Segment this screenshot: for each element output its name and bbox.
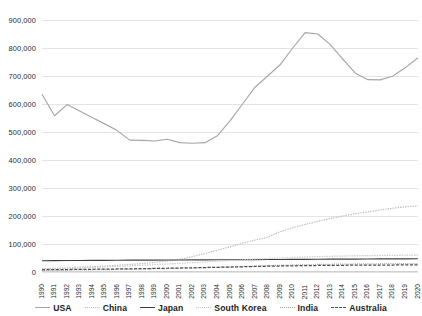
y-axis-tick-label: 600,000 — [9, 100, 36, 109]
chart-legend: USAChinaJapanSouth KoreaIndiaAustralia — [0, 299, 422, 316]
y-axis-tick-label: 0 — [32, 268, 36, 277]
legend-item-china[interactable]: China — [85, 303, 127, 313]
series-lines — [42, 20, 418, 272]
x-axis-tick-label: 1996 — [114, 284, 121, 299]
legend-item-australia[interactable]: Australia — [331, 303, 387, 313]
y-axis-tick-label: 900,000 — [9, 16, 36, 25]
x-axis-tick-label: 2010 — [289, 284, 296, 299]
x-axis-tick-label: 2015 — [352, 284, 359, 299]
y-axis-tick-label: 200,000 — [9, 212, 36, 221]
x-axis-tick-label: 1997 — [126, 284, 133, 299]
x-axis-tick-label: 2020 — [415, 284, 422, 299]
legend-item-usa[interactable]: USA — [35, 303, 71, 313]
x-axis-tick-label: 2007 — [252, 284, 259, 299]
y-axis-tick-label: 700,000 — [9, 72, 36, 81]
x-axis-tick-label: 1990 — [39, 284, 46, 299]
x-axis-tick-label: 2013 — [327, 284, 334, 299]
y-axis-tick-label: 400,000 — [9, 156, 36, 165]
legend-label-usa: USA — [53, 303, 71, 313]
legend-item-india[interactable]: India — [280, 303, 319, 313]
x-axis-tick-label: 1992 — [64, 284, 71, 299]
x-axis-tick-label: 2003 — [201, 284, 208, 299]
x-axis-tick-label: 1993 — [76, 284, 83, 299]
x-axis-labels: 1990199119921993199419951996199719981999… — [42, 273, 418, 299]
x-axis-tick-label: 2009 — [277, 284, 284, 299]
legend-swatch-australia — [331, 307, 346, 308]
x-axis-tick-label: 1995 — [101, 284, 108, 299]
x-axis-line — [42, 271, 418, 272]
x-axis-tick-label: 1999 — [151, 284, 158, 299]
x-axis-tick-label: 2001 — [176, 284, 183, 299]
legend-swatch-china — [85, 307, 100, 308]
y-axis-tick-label: 300,000 — [9, 184, 36, 193]
x-axis-tick-label: 1998 — [139, 284, 146, 299]
legend-label-south-korea: South Korea — [214, 303, 266, 313]
x-axis-tick-label: 2002 — [189, 284, 196, 299]
legend-swatch-south-korea — [196, 307, 211, 308]
x-axis-tick-label: 2011 — [302, 285, 309, 299]
legend-label-india: India — [298, 303, 319, 313]
x-axis-tick-label: 2006 — [239, 284, 246, 299]
x-axis-tick-label: 2019 — [402, 284, 409, 299]
x-axis-tick-label: 2018 — [389, 284, 396, 299]
y-axis-tick-label: 500,000 — [9, 128, 36, 137]
y-axis-labels: 0100,000200,000300,000400,000500,000600,… — [0, 0, 40, 292]
plot-area — [42, 20, 418, 272]
legend-item-japan[interactable]: Japan — [140, 303, 183, 313]
legend-label-japan: Japan — [158, 303, 183, 313]
x-axis-tick-label: 2008 — [264, 284, 271, 299]
legend-label-china: China — [103, 303, 127, 313]
legend-swatch-usa — [35, 307, 50, 308]
x-axis-tick-label: 2004 — [214, 284, 221, 299]
x-axis-tick-label: 2014 — [339, 284, 346, 299]
y-axis-tick-label: 100,000 — [9, 240, 36, 249]
x-axis-tick-label: 2000 — [164, 284, 171, 299]
legend-swatch-india — [280, 307, 295, 308]
legend-label-australia: Australia — [349, 303, 387, 313]
x-axis-tick-label: 1991 — [51, 284, 58, 299]
x-axis-tick-label: 2016 — [364, 284, 371, 299]
x-axis-tick-label: 2012 — [314, 284, 321, 299]
x-axis-tick-label: 1994 — [89, 284, 96, 299]
series-line-usa — [42, 33, 418, 144]
x-axis-tick-label: 2005 — [227, 284, 234, 299]
legend-swatch-japan — [140, 307, 155, 308]
y-axis-tick-label: 800,000 — [9, 44, 36, 53]
series-line-australia — [42, 265, 418, 270]
line-chart: 0100,000200,000300,000400,000500,000600,… — [0, 0, 422, 316]
x-axis-tick-label: 2017 — [377, 284, 384, 299]
series-line-south-korea — [42, 255, 418, 269]
legend-item-south-korea[interactable]: South Korea — [196, 303, 266, 313]
